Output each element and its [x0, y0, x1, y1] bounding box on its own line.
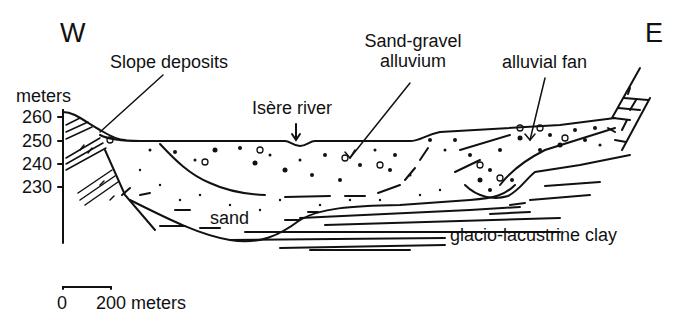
tick-250: 250	[6, 132, 52, 150]
west-label: W	[60, 20, 85, 47]
alluvial-fan-label: alluvial fan	[502, 53, 587, 71]
slope-deposits-label: Slope deposits	[110, 53, 228, 71]
sand-label: sand	[210, 209, 249, 227]
axis-unit-label: meters	[16, 87, 71, 105]
scale-bar-start: 0	[57, 294, 67, 312]
tick-230: 230	[6, 178, 52, 196]
east-label: E	[645, 20, 663, 47]
scale-bar-end-label: 200 meters	[96, 294, 186, 312]
sand-gravel-label: Sand-gravel alluvium	[353, 32, 473, 70]
sand-gravel-label-line1: Sand-gravel	[353, 32, 473, 50]
tick-240: 240	[6, 155, 52, 173]
clay-label: glacio-lacustrine clay	[450, 226, 617, 244]
ground-surface	[100, 118, 615, 146]
cross-section-drawing	[0, 0, 675, 322]
isere-river-label: Isère river	[252, 99, 332, 117]
tick-260: 260	[6, 108, 52, 126]
sand-gravel-label-line2: alluvium	[353, 52, 473, 70]
scale-bar-line	[63, 287, 111, 289]
